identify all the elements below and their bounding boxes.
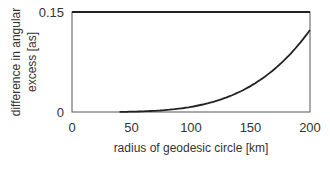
y-tick-label: 0.15: [39, 5, 64, 20]
x-tick-label: 200: [299, 120, 321, 135]
x-tick-label: 0: [68, 120, 75, 135]
x-tick-label: 50: [124, 120, 138, 135]
line-chart: 050100150200 00.15 radius of geodesic ci…: [0, 0, 330, 160]
y-axis-label-line-1: difference in angular: [9, 8, 23, 117]
x-axis-ticks: 050100150200: [68, 120, 320, 135]
y-axis-ticks: 00.15: [39, 5, 64, 120]
figure-caption: [0, 158, 330, 172]
x-tick-label: 150: [240, 120, 262, 135]
y-tick-label: 0: [57, 105, 64, 120]
x-tick-label: 100: [180, 120, 202, 135]
x-axis-label: radius of geodesic circle [km]: [114, 141, 269, 155]
y-axis-label: difference in angular excess [as]: [9, 8, 39, 117]
y-axis-label-line-2: excess [as]: [25, 32, 39, 92]
plot-frame: [72, 12, 310, 112]
